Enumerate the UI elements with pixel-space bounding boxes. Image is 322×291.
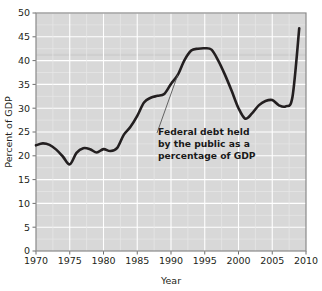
x-axis-tick-labels: 197019751980198519901995200020052010 [24, 255, 318, 266]
x-tick-label: 1985 [125, 255, 149, 266]
y-tick-label: 20 [18, 150, 30, 161]
x-axis-title: Year [160, 275, 181, 286]
y-tick-label: 35 [18, 79, 30, 90]
y-tick-label: 25 [18, 126, 30, 137]
chart-figure: 05101520253035404550 1970197519801985199… [0, 0, 322, 291]
x-tick-label: 2000 [226, 255, 250, 266]
x-tick-label: 2010 [294, 255, 318, 266]
x-tick-label: 1990 [159, 255, 183, 266]
x-tick-label: 1975 [58, 255, 82, 266]
x-tick-label: 1980 [91, 255, 115, 266]
annotation-line-3: percentage of GDP [158, 150, 256, 161]
y-tick-label: 15 [18, 174, 30, 185]
y-tick-label: 50 [18, 7, 30, 18]
y-tick-label: 40 [18, 55, 30, 66]
y-tick-label: 10 [18, 198, 30, 209]
y-tick-label: 30 [18, 103, 30, 114]
y-axis-title: Percent of GDP [3, 96, 14, 168]
annotation-line-1: Federal debt held [158, 126, 250, 137]
annotation-line-2: by the public as a [158, 138, 250, 149]
y-tick-label: 5 [24, 222, 30, 233]
debt-gdp-line-chart: 05101520253035404550 1970197519801985199… [0, 0, 322, 291]
y-tick-label: 45 [18, 31, 30, 42]
x-tick-label: 2005 [260, 255, 284, 266]
x-tick-label: 1970 [24, 255, 48, 266]
y-axis-tick-labels: 05101520253035404550 [18, 7, 30, 256]
x-tick-label: 1995 [193, 255, 217, 266]
